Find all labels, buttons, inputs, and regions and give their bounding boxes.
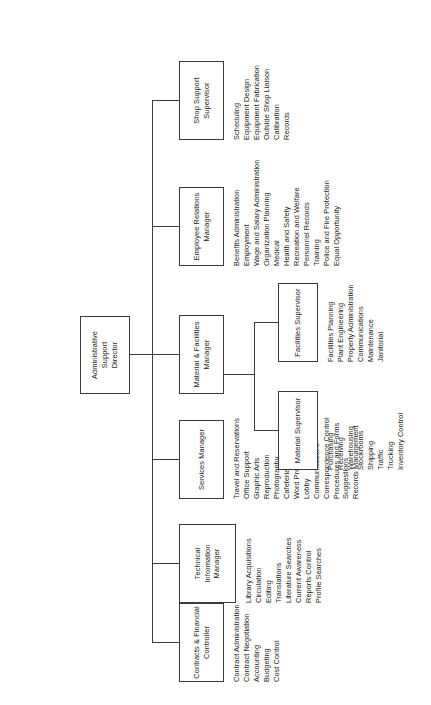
connector-drop-employee-relations xyxy=(152,226,179,227)
connector-drop-technical xyxy=(152,563,179,564)
function-item: Calibration xyxy=(272,65,282,140)
node-title: Employee Relations Manager xyxy=(192,193,212,261)
function-item: Warehousing xyxy=(346,413,356,470)
node-title: Material Supervisor xyxy=(293,398,303,464)
function-item: Reproduction xyxy=(262,417,272,499)
node-title: Facilities Supervisor xyxy=(293,288,303,356)
function-item: Outside Shop Liaison xyxy=(262,65,272,140)
function-item: Janitorial xyxy=(376,284,386,362)
org-chart: Administrative Support Director Contract… xyxy=(0,0,431,705)
function-item: Travel and Reservations xyxy=(232,417,242,499)
node-title: Shop Support Supervisor xyxy=(192,77,212,123)
function-item: Shipping xyxy=(366,413,376,470)
node-title: Administrative Support Director xyxy=(90,331,120,379)
function-item: Receiving xyxy=(336,413,346,470)
connector-drop-contracts xyxy=(152,642,179,643)
node-technical-information-manager[interactable]: Technical Information Manager xyxy=(179,524,236,603)
function-item: Facilities Planning xyxy=(326,284,336,362)
function-item: Records xyxy=(282,65,292,140)
function-item: Plant Engineering xyxy=(336,284,346,362)
function-item: Communications xyxy=(356,284,366,362)
connector-material-facilities-stem xyxy=(224,374,254,375)
functions-contracts-financial-controller: Contract Administration Contract Negotia… xyxy=(232,604,282,682)
function-item: Maintenance xyxy=(366,284,376,362)
node-services-manager[interactable]: Services Manager xyxy=(179,420,224,499)
node-administrative-support-director[interactable]: Administrative Support Director xyxy=(80,316,130,394)
function-item: Training xyxy=(312,160,322,266)
function-item: Circulation xyxy=(254,538,264,603)
function-item: Purchasing xyxy=(326,413,336,470)
function-item: Profile Searches xyxy=(314,538,324,603)
function-item: Cost Control xyxy=(272,604,282,682)
function-item: Property Administration xyxy=(346,284,356,362)
node-employee-relations-manager[interactable]: Employee Relations Manager xyxy=(179,187,224,266)
function-item: Contract Administration xyxy=(232,604,242,682)
functions-employee-relations-manager: Benefits Administration Employment Wage … xyxy=(232,160,341,266)
function-item: Wage and Salary Administration xyxy=(252,160,262,266)
function-item: Scheduling xyxy=(232,65,242,140)
node-shop-support-supervisor[interactable]: Shop Support Supervisor xyxy=(179,61,224,140)
function-item: Personnel Records xyxy=(302,160,312,266)
connector-main-spine xyxy=(152,101,153,643)
node-title: Technical Information Manager xyxy=(193,544,223,582)
node-material-facilities-manager[interactable]: Material & Facilities Manager xyxy=(179,315,224,394)
function-item: Office Support xyxy=(242,417,252,499)
connector-drop-facilities-supervisor xyxy=(254,322,278,323)
connector-supervisor-spine xyxy=(254,323,255,431)
chart-rotation-wrapper: Administrative Support Director Contract… xyxy=(0,0,431,705)
function-item: Employment xyxy=(242,160,252,266)
node-facilities-supervisor[interactable]: Facilities Supervisor xyxy=(278,283,318,362)
function-item: Reports Control xyxy=(304,538,314,603)
node-contracts-financial-controller[interactable]: Contracts & Financial Controller xyxy=(179,603,224,682)
function-item: Equipment Fabrication xyxy=(252,65,262,140)
function-item: Editing xyxy=(264,538,274,603)
function-item: Health and Safety xyxy=(282,160,292,266)
functions-facilities-supervisor: Facilities Planning Plant Engineering Pr… xyxy=(326,284,386,362)
functions-shop-support-supervisor: Scheduling Equipment Design Equipment Fa… xyxy=(232,65,292,140)
functions-material-supervisor: Purchasing Receiving Warehousing Stockro… xyxy=(326,413,406,470)
function-item: Organization Planning xyxy=(262,160,272,266)
function-item: Trucking xyxy=(386,413,396,470)
function-item: Contract Negotiation xyxy=(242,604,252,682)
node-material-supervisor[interactable]: Material Supervisor xyxy=(278,391,318,470)
function-item: Budgeting xyxy=(262,604,272,682)
function-item: Current Awareness xyxy=(294,538,304,603)
connector-drop-services xyxy=(152,459,179,460)
function-item: Library Acquisitions xyxy=(244,538,254,603)
node-title: Material & Facilities Manager xyxy=(192,321,212,387)
function-item: Inventory Control xyxy=(396,413,406,470)
function-item: Recreation and Welfare xyxy=(292,160,302,266)
node-title: Contracts & Financial Controller xyxy=(192,606,212,678)
function-item: Translations xyxy=(274,538,284,603)
connector-drop-shop-support xyxy=(152,100,179,101)
function-item: Stockrooms xyxy=(356,413,366,470)
function-item: Graphic Arts xyxy=(252,417,262,499)
function-item: Literature Searches xyxy=(284,538,294,603)
function-item: Police and Fire Protection xyxy=(322,160,332,266)
function-item: Equal Opportunity xyxy=(332,160,342,266)
node-title: Services Manager xyxy=(197,429,207,490)
function-item: Medical xyxy=(272,160,282,266)
function-item: Equipment Design xyxy=(242,65,252,140)
function-item: Accounting xyxy=(252,604,262,682)
functions-technical-information-manager: Library Acquisitions Circulation Editing… xyxy=(244,538,324,603)
connector-drop-material-facilities xyxy=(152,354,179,355)
function-item: Benefits Administration xyxy=(232,160,242,266)
connector-root-stub xyxy=(130,354,152,355)
function-item: Traffic xyxy=(376,413,386,470)
